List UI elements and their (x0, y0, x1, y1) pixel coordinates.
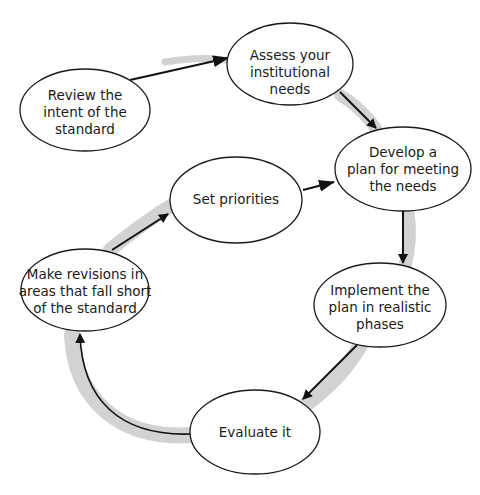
svg-text:standard: standard (55, 121, 115, 137)
node-revise: Make revisions in areas that fall short … (19, 249, 152, 331)
svg-text:needs: needs (270, 81, 311, 97)
arrow-assess-to-develop (340, 92, 376, 128)
node-implement: Implement the plan in realistic phases (314, 263, 446, 347)
node-review: Review the intent of the standard (20, 69, 150, 151)
node-implement-line-1: Implement the (330, 282, 430, 298)
node-revise-line-1: Make revisions in (27, 266, 143, 282)
node-assess-line-3: needs (270, 81, 311, 97)
node-assess: Assess your institutional needs (227, 23, 353, 105)
svg-text:Make revisions in: Make revisions in (27, 266, 143, 282)
node-implement-line-3: phases (356, 316, 404, 332)
node-develop-line-1: Develop a (369, 144, 437, 160)
node-assess-line-1: Assess your (250, 47, 331, 63)
node-review-line-2: intent of the (43, 104, 127, 120)
node-review-line-1: Review the (48, 87, 123, 103)
node-review-line-3: standard (55, 121, 115, 137)
arrow-evaluate-to-revise (80, 334, 190, 434)
arrow-priorities-to-develop (303, 182, 334, 190)
svg-text:Set priorities: Set priorities (193, 191, 279, 207)
node-revise-line-3: of the standard (33, 300, 137, 316)
svg-text:Evaluate it: Evaluate it (219, 424, 291, 440)
node-assess-line-2: institutional (250, 64, 330, 80)
node-evaluate-line-1: Evaluate it (219, 424, 291, 440)
svg-text:institutional: institutional (250, 64, 330, 80)
node-develop-line-2: plan for meeting (347, 161, 459, 177)
cycle-diagram: Review the intent of the standard Assess… (0, 0, 480, 495)
node-priorities: Set priorities (170, 157, 302, 243)
svg-text:plan in realistic: plan in realistic (329, 299, 432, 315)
node-priorities-line-1: Set priorities (193, 191, 279, 207)
svg-text:intent of the: intent of the (43, 104, 127, 120)
node-evaluate: Evaluate it (190, 390, 320, 474)
node-develop-line-3: the needs (369, 178, 436, 194)
svg-text:Develop a: Develop a (369, 144, 437, 160)
svg-text:areas that fall short: areas that fall short (19, 283, 152, 299)
node-revise-line-2: areas that fall short (19, 283, 152, 299)
svg-text:Assess your: Assess your (250, 47, 331, 63)
svg-text:of the standard: of the standard (33, 300, 137, 316)
node-implement-line-2: plan in realistic (329, 299, 432, 315)
svg-text:Implement the: Implement the (330, 282, 430, 298)
svg-text:phases: phases (356, 316, 404, 332)
node-develop: Develop a plan for meeting the needs (335, 127, 471, 211)
svg-text:plan for meeting: plan for meeting (347, 161, 459, 177)
svg-text:the needs: the needs (369, 178, 436, 194)
svg-text:Review the: Review the (48, 87, 123, 103)
